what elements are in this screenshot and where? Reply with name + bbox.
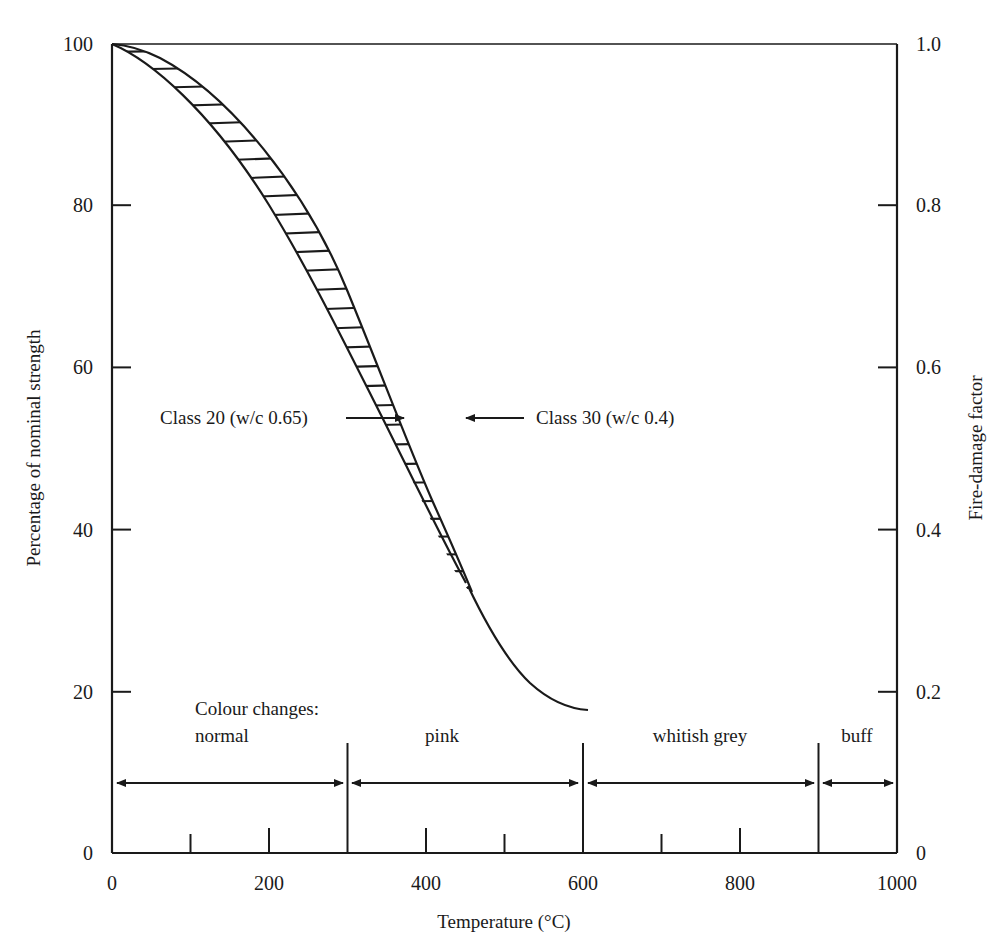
class-30-label: Class 30 (w/c 0.4): [536, 407, 674, 429]
y-right-axis-title: Fire-damage factor: [965, 375, 986, 521]
colour-change-dividers: [348, 743, 819, 853]
y-left-label-60: 60: [73, 356, 93, 378]
colour-changes-caption: Colour changes:: [195, 698, 319, 719]
class-20-label: Class 20 (w/c 0.65): [160, 407, 308, 429]
y-left-tick-labels: 100 80 60 40 20 0: [63, 33, 93, 864]
x-axis-title: Temperature (°C): [437, 911, 570, 933]
chart-figure: Class 20 (w/c 0.65) Class 30 (w/c 0.4) C…: [0, 0, 1005, 942]
annotation-class-20: Class 20 (w/c 0.65): [160, 407, 404, 429]
band-label-whitish-grey: whitish grey: [653, 725, 748, 746]
x-label-600: 600: [568, 872, 598, 894]
band-label-pink: pink: [425, 725, 459, 746]
annotation-class-30: Class 30 (w/c 0.4): [466, 407, 674, 429]
band-label-normal: normal: [195, 725, 249, 746]
x-label-400: 400: [411, 872, 441, 894]
y-right-label-0: 0: [916, 842, 926, 864]
x-tick-labels: 0 200 400 600 800 1000: [107, 872, 917, 894]
colour-change-legend: Colour changes: normal pink whitish grey…: [117, 698, 893, 783]
y-right-label-02: 0.2: [916, 681, 941, 703]
x-label-0: 0: [107, 872, 117, 894]
y-right-label-10: 1.0: [916, 33, 941, 55]
y-right-label-06: 0.6: [916, 356, 941, 378]
y-right-tick-labels: 1.0 0.8 0.6 0.4 0.2 0: [916, 33, 941, 864]
y-right-ticks: [878, 205, 897, 692]
hatch-rungs: [100, 46, 520, 588]
y-right-label-04: 0.4: [916, 519, 941, 541]
y-left-label-40: 40: [73, 519, 93, 541]
x-label-200: 200: [254, 872, 284, 894]
strength-envelope-hatched: [100, 44, 588, 710]
x-label-800: 800: [725, 872, 755, 894]
fire-damage-strength-chart: Class 20 (w/c 0.65) Class 30 (w/c 0.4) C…: [0, 0, 1005, 942]
curve-class-30: [112, 44, 472, 592]
y-left-label-20: 20: [73, 681, 93, 703]
y-left-label-80: 80: [73, 194, 93, 216]
x-label-1000: 1000: [877, 872, 917, 894]
x-ticks: [191, 828, 741, 853]
curve-class-20: [112, 44, 466, 583]
band-label-buff: buff: [841, 725, 873, 746]
curve-merged-tail: [468, 586, 588, 710]
y-left-label-0: 0: [83, 842, 93, 864]
y-left-axis-title: Percentage of nominal strength: [23, 329, 44, 566]
y-right-label-08: 0.8: [916, 194, 941, 216]
y-left-ticks: [112, 205, 131, 692]
y-left-label-100: 100: [63, 33, 93, 55]
